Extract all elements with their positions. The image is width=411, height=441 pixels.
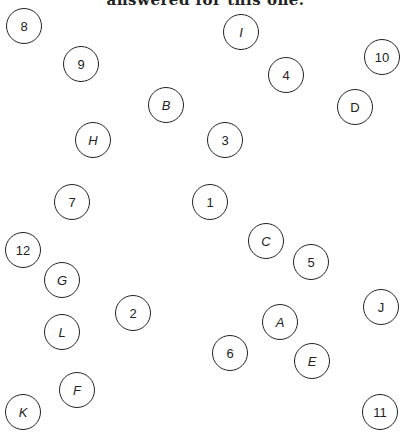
caption-text: answered for this one. [0, 0, 411, 9]
circle-node-3[interactable]: 3 [207, 122, 243, 158]
circle-node-1[interactable]: 1 [192, 184, 228, 220]
circle-node-12[interactable]: 12 [5, 232, 41, 268]
circle-node-8[interactable]: 8 [6, 8, 42, 44]
circle-node-h[interactable]: H [75, 122, 111, 158]
circle-node-i[interactable]: I [223, 14, 259, 50]
circle-node-9[interactable]: 9 [63, 46, 99, 82]
circle-node-g[interactable]: G [44, 262, 80, 298]
circle-node-k[interactable]: K [5, 394, 41, 430]
circle-node-4[interactable]: 4 [268, 57, 304, 93]
circle-node-10[interactable]: 10 [364, 39, 400, 75]
circle-node-2[interactable]: 2 [115, 295, 151, 331]
circle-node-j[interactable]: J [363, 289, 399, 325]
circle-node-7[interactable]: 7 [54, 184, 90, 220]
circle-node-a[interactable]: A [262, 304, 298, 340]
circle-node-11[interactable]: 11 [362, 394, 398, 430]
circle-node-e[interactable]: E [294, 343, 330, 379]
circle-node-d[interactable]: D [337, 89, 373, 125]
circle-node-f[interactable]: F [59, 372, 95, 408]
circle-node-b[interactable]: B [148, 87, 184, 123]
circle-node-6[interactable]: 6 [212, 335, 248, 371]
circle-node-5[interactable]: 5 [293, 244, 329, 280]
circle-node-c[interactable]: C [248, 223, 284, 259]
circle-node-l[interactable]: L [44, 314, 80, 350]
